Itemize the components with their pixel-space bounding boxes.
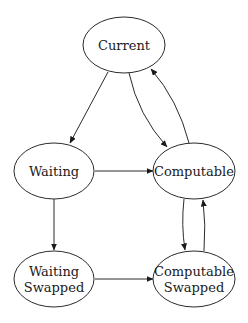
edge-computable-to-current <box>151 69 189 143</box>
node-label-line2: Swapped <box>24 280 84 295</box>
node-waiting-swapped: Waiting Swapped <box>14 251 94 307</box>
node-computable-swapped: Computable Swapped <box>153 251 235 307</box>
state-diagram: Current Waiting Computable Waiting Swapp… <box>0 0 248 323</box>
edge-current-to-waiting <box>70 72 108 143</box>
edge-current-to-computable <box>129 73 167 147</box>
node-waiting: Waiting <box>14 143 94 199</box>
edge-computable-to-computable-swapped <box>183 199 185 250</box>
node-label: Current <box>98 38 151 53</box>
node-label-line2: Swapped <box>164 280 224 295</box>
node-label: Waiting <box>29 164 79 179</box>
edge-computable-swapped-to-computable <box>203 200 205 251</box>
node-label-line1: Waiting <box>29 264 79 279</box>
node-computable: Computable <box>153 143 235 199</box>
node-current: Current <box>83 17 165 73</box>
node-label-line1: Computable <box>154 264 234 279</box>
node-label: Computable <box>154 164 234 179</box>
